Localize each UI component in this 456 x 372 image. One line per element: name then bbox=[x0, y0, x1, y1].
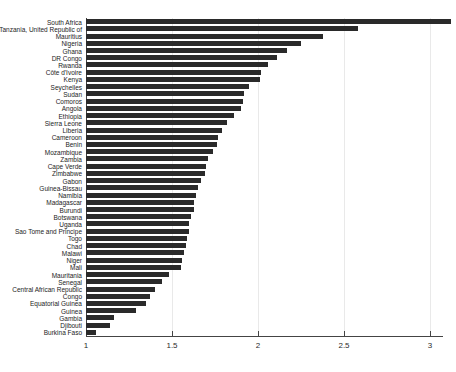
category-label: Burkina Faso bbox=[44, 329, 82, 336]
category-label: Djibouti bbox=[60, 322, 82, 329]
bar bbox=[86, 330, 96, 335]
bar bbox=[86, 106, 241, 111]
bar-row: Namibia bbox=[86, 193, 196, 198]
x-axis-line bbox=[86, 336, 443, 337]
bar bbox=[86, 200, 194, 205]
bar-row: Rwanda bbox=[86, 62, 268, 67]
category-label: Madagascar bbox=[46, 199, 82, 206]
category-label: DR Congo bbox=[52, 54, 82, 61]
bar-row: Nigeria bbox=[86, 41, 301, 46]
bar-row: Gambia bbox=[86, 315, 114, 320]
bar-row: Cape Verde bbox=[86, 164, 206, 169]
bar bbox=[86, 207, 194, 212]
bar bbox=[86, 34, 323, 39]
bar-row: Tanzania, United Republic of bbox=[86, 26, 358, 31]
category-label: Gabon bbox=[62, 177, 82, 184]
category-label: Chad bbox=[66, 242, 82, 249]
category-label: Sierra Leone bbox=[45, 119, 82, 126]
bar bbox=[86, 323, 110, 328]
category-label: Burundi bbox=[60, 206, 82, 213]
bar bbox=[86, 99, 243, 104]
bar bbox=[86, 19, 451, 24]
x-tick-mark bbox=[258, 331, 259, 337]
bar bbox=[86, 178, 201, 183]
category-label: Cameroon bbox=[52, 134, 82, 141]
bar bbox=[86, 250, 184, 255]
bar-row: Guinea bbox=[86, 308, 136, 313]
bar bbox=[86, 48, 287, 53]
bar bbox=[86, 91, 244, 96]
bar-row: Mozambique bbox=[86, 149, 213, 154]
bar-row: Zimbabwe bbox=[86, 171, 205, 176]
category-label: Rwanda bbox=[58, 61, 82, 68]
bar bbox=[86, 62, 268, 67]
category-label: Malawi bbox=[62, 249, 82, 256]
x-tick-mark bbox=[344, 331, 345, 337]
x-tick-label: 1.5 bbox=[166, 341, 177, 351]
bar-row: Togo bbox=[86, 236, 187, 241]
bar bbox=[86, 229, 189, 234]
bar bbox=[86, 185, 198, 190]
bar-row: Djibouti bbox=[86, 323, 110, 328]
bar bbox=[86, 164, 206, 169]
bar-row: South Africa bbox=[86, 19, 451, 24]
bar-row: Gabon bbox=[86, 178, 201, 183]
bar bbox=[86, 149, 213, 154]
category-label: Seychelles bbox=[51, 83, 82, 90]
bar bbox=[86, 287, 155, 292]
bar bbox=[86, 171, 205, 176]
bar-row: Sao Tome and Principe bbox=[86, 229, 189, 234]
bar-row: Uganda bbox=[86, 221, 189, 226]
category-label: Senegal bbox=[58, 278, 82, 285]
bar bbox=[86, 26, 358, 31]
bar-row: Central African Republic bbox=[86, 287, 155, 292]
bar bbox=[86, 142, 217, 147]
category-label: Ethiopia bbox=[59, 112, 83, 119]
bar bbox=[86, 41, 301, 46]
category-label: Guinea bbox=[61, 307, 82, 314]
x-tick-label: 2.5 bbox=[338, 341, 349, 351]
bar bbox=[86, 308, 136, 313]
bar-row: Liberia bbox=[86, 128, 222, 133]
category-label: Namibia bbox=[58, 192, 82, 199]
bar bbox=[86, 221, 189, 226]
category-label: Sudan bbox=[63, 90, 82, 97]
bar-row: Zambia bbox=[86, 156, 208, 161]
category-label: Mauritania bbox=[52, 271, 82, 278]
category-label: Côte d'Ivoire bbox=[46, 69, 82, 76]
category-label: Central African Republic bbox=[12, 286, 82, 293]
bar-row: DR Congo bbox=[86, 55, 277, 60]
bar-row: Angola bbox=[86, 106, 241, 111]
category-label: Equatorial Guinea bbox=[30, 300, 82, 307]
category-label: Cape Verde bbox=[48, 163, 82, 170]
bar-row: Benin bbox=[86, 142, 217, 147]
bar bbox=[86, 301, 146, 306]
bar-row: Cameroon bbox=[86, 135, 218, 140]
x-tick-label: 1 bbox=[84, 341, 88, 351]
bar-row: Ethiopia bbox=[86, 113, 234, 118]
category-label: Liberia bbox=[62, 127, 82, 134]
category-label: South Africa bbox=[47, 18, 82, 25]
bar-row: Burundi bbox=[86, 207, 194, 212]
gridline-x-2-5 bbox=[344, 18, 345, 336]
bar bbox=[86, 294, 150, 299]
bar bbox=[86, 120, 227, 125]
bar bbox=[86, 113, 234, 118]
category-label: Zimbabwe bbox=[52, 170, 82, 177]
bar-row: Côte d'Ivoire bbox=[86, 70, 261, 75]
category-label: Botswana bbox=[53, 213, 82, 220]
bar-row: Congo bbox=[86, 294, 150, 299]
category-label: Tanzania, United Republic of bbox=[0, 25, 82, 32]
bar-row: Malawi bbox=[86, 250, 184, 255]
bar bbox=[86, 135, 218, 140]
bar-row: Madagascar bbox=[86, 200, 194, 205]
bar bbox=[86, 214, 191, 219]
category-label: Mozambique bbox=[45, 148, 82, 155]
category-label: Mauritius bbox=[56, 33, 82, 40]
bar-row: Mali bbox=[86, 265, 181, 270]
bar bbox=[86, 265, 181, 270]
bar bbox=[86, 279, 162, 284]
bar-row: Ghana bbox=[86, 48, 287, 53]
category-label: Comoros bbox=[56, 98, 82, 105]
category-label: Nigeria bbox=[61, 40, 82, 47]
